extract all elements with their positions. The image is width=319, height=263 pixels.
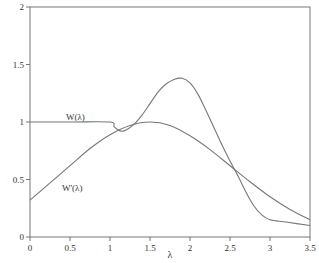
curves — [30, 78, 310, 225]
x-tick-label: 2.5 — [224, 243, 236, 253]
x-tick-label: 2 — [188, 243, 193, 253]
y-axis-ticks: 00.511.52 — [13, 2, 30, 242]
x-tick-label: 0 — [28, 243, 33, 253]
series-label-0: W(λ) — [66, 112, 85, 122]
x-axis-label: λ — [168, 249, 173, 260]
series-curve-0 — [30, 78, 310, 225]
y-tick-label: 0 — [20, 232, 25, 242]
x-tick-label: 1.5 — [144, 243, 156, 253]
y-tick-label: 1.5 — [13, 60, 25, 70]
x-tick-label: 3.5 — [304, 243, 316, 253]
y-tick-label: 0.5 — [13, 175, 25, 185]
line-chart: 00.511.52 00.511.522.533.5 W(λ)W'(λ) λ — [0, 0, 319, 263]
y-tick-label: 1 — [20, 117, 25, 127]
curve-labels: W(λ)W'(λ) — [62, 112, 85, 193]
y-tick-label: 2 — [20, 2, 25, 12]
x-tick-label: 1 — [108, 243, 113, 253]
series-label-1: W'(λ) — [62, 183, 82, 193]
x-tick-label: 3 — [268, 243, 273, 253]
series-curve-1 — [30, 122, 310, 220]
x-tick-label: 0.5 — [64, 243, 76, 253]
